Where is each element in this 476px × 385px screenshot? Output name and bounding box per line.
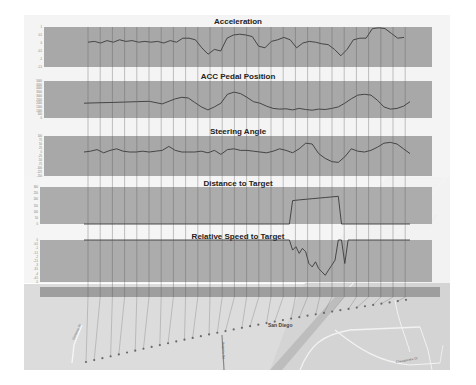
svg-text:-1.5: -1.5 bbox=[38, 65, 43, 69]
svg-text:0.5: 0.5 bbox=[38, 33, 42, 37]
timeline-strip bbox=[40, 287, 440, 297]
svg-text:100: 100 bbox=[38, 134, 43, 138]
svg-text:250: 250 bbox=[34, 191, 39, 195]
figure-canvas: Genesee St Regents Rd Chesapeake Dr I-80… bbox=[0, 0, 476, 385]
pedal-position-title: ACC Pedal Position bbox=[201, 72, 276, 81]
svg-text:100: 100 bbox=[34, 210, 39, 214]
svg-text:2000: 2000 bbox=[36, 101, 42, 105]
svg-text:200: 200 bbox=[34, 197, 39, 201]
steering-angle-title: Steering Angle bbox=[210, 127, 267, 136]
city-label: San Diego bbox=[268, 322, 292, 328]
svg-text:1500: 1500 bbox=[36, 105, 42, 109]
svg-text:-125: -125 bbox=[37, 170, 43, 174]
svg-text:-0.5: -0.5 bbox=[34, 242, 39, 246]
svg-text:150: 150 bbox=[34, 204, 39, 208]
distance-title: Distance to Target bbox=[203, 179, 273, 188]
svg-text:4500: 4500 bbox=[36, 83, 42, 87]
svg-text:-100: -100 bbox=[37, 166, 43, 170]
svg-text:-4.5: -4.5 bbox=[34, 276, 39, 280]
svg-text:300: 300 bbox=[34, 185, 39, 189]
svg-text:-1.5: -1.5 bbox=[34, 251, 39, 255]
svg-text:500: 500 bbox=[38, 112, 43, 116]
svg-text:-2.5: -2.5 bbox=[34, 259, 39, 263]
svg-text:1000: 1000 bbox=[36, 109, 42, 113]
svg-text:-0.5: -0.5 bbox=[38, 49, 43, 53]
acceleration-title: Acceleration bbox=[214, 17, 262, 26]
svg-text:3500: 3500 bbox=[36, 90, 42, 94]
svg-text:2500: 2500 bbox=[36, 98, 42, 102]
svg-text:-75: -75 bbox=[38, 162, 42, 166]
svg-text:-3.5: -3.5 bbox=[34, 267, 39, 271]
svg-text:-25: -25 bbox=[38, 154, 42, 158]
svg-text:3000: 3000 bbox=[36, 94, 42, 98]
svg-text:5000: 5000 bbox=[36, 79, 42, 83]
street-label-regents: Regents Rd bbox=[221, 342, 226, 359]
svg-text:-50: -50 bbox=[38, 158, 42, 162]
svg-text:4000: 4000 bbox=[36, 86, 42, 90]
